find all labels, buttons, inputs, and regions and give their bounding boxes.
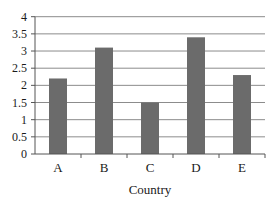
bar-c	[141, 103, 159, 154]
y-tick-label: 1	[21, 113, 27, 127]
y-tick-label: 4	[21, 10, 27, 24]
bar-e	[233, 75, 251, 154]
x-tick-label: D	[191, 160, 200, 175]
bar-chart: 00.511.522.533.54 ABCDE Country	[0, 0, 275, 203]
chart-canvas: 00.511.522.533.54 ABCDE Country	[0, 0, 275, 203]
y-tick-label: 0.5	[12, 130, 27, 144]
y-tick-label: 0	[21, 147, 27, 161]
y-tick-label: 3.5	[12, 27, 27, 41]
y-axis-tick-labels: 00.511.522.533.54	[12, 10, 27, 161]
x-tick-label: B	[100, 160, 109, 175]
x-tick-label: A	[53, 160, 63, 175]
bar-d	[187, 37, 205, 154]
x-tick-label: E	[238, 160, 246, 175]
y-tick-label: 2	[21, 78, 27, 92]
bar-a	[49, 78, 67, 154]
bar-b	[95, 48, 113, 154]
y-tick-label: 1.5	[12, 96, 27, 110]
x-axis-tick-labels: ABCDE	[53, 160, 246, 175]
y-tick-label: 2.5	[12, 61, 27, 75]
y-tick-label: 3	[21, 44, 27, 58]
x-axis-title: Country	[129, 182, 172, 197]
x-tick-label: C	[146, 160, 155, 175]
